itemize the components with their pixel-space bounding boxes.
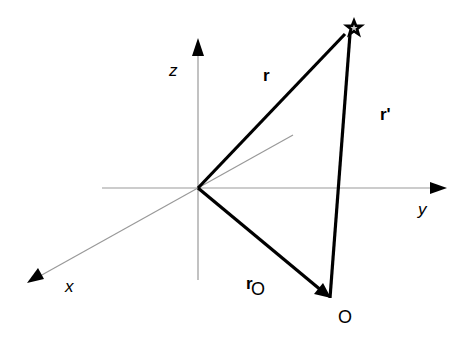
x-axis-arrowhead bbox=[27, 268, 44, 283]
vector-r-prime-label: r' bbox=[380, 105, 391, 124]
z-axis-arrowhead bbox=[192, 38, 204, 56]
vector-r-prime bbox=[330, 34, 350, 298]
vector-r bbox=[198, 34, 345, 188]
vector-r-o-subscript: O bbox=[251, 279, 265, 299]
x-axis-label: x bbox=[64, 277, 74, 296]
vector-diagram: z y x r r' r O O bbox=[0, 0, 467, 337]
y-axis-label: y bbox=[417, 200, 428, 219]
vector-r-o bbox=[198, 188, 322, 291]
point-o-label: O bbox=[338, 307, 352, 327]
y-axis-arrowhead bbox=[430, 182, 447, 194]
star-icon bbox=[343, 17, 365, 38]
z-axis-label: z bbox=[168, 61, 178, 80]
vector-r-label: r bbox=[263, 66, 270, 85]
x-axis bbox=[40, 135, 293, 276]
